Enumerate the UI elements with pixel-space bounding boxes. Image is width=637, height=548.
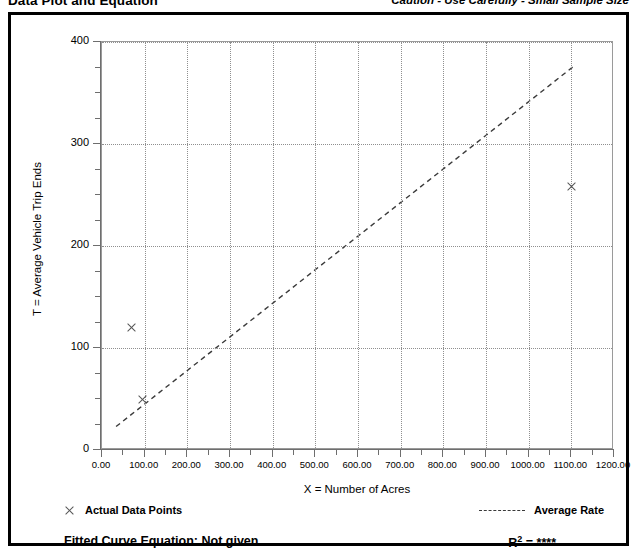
gridline-vertical: [529, 42, 530, 448]
plot-inner: [102, 42, 612, 448]
y-axis-tick-major: [93, 449, 101, 450]
y-axis-tick-minor: [95, 398, 101, 399]
y-axis-tick-label: 100: [57, 340, 89, 352]
x-axis-tick-major: [528, 449, 529, 457]
equation-row: Fitted Curve Equation: Not given R2 = **…: [11, 534, 632, 548]
gridline-vertical: [486, 42, 487, 448]
caution-note: Caution - Use Carefully - Small Sample S…: [391, 0, 629, 6]
fitted-curve-equation: Fitted Curve Equation: Not given: [64, 534, 258, 548]
y-axis-tick-minor: [95, 67, 101, 68]
gridline-horizontal: [102, 144, 612, 145]
r-squared-base: R: [508, 536, 517, 548]
gridline-vertical: [358, 42, 359, 448]
x-axis-tick-minor: [250, 449, 251, 455]
gridline-horizontal: [102, 348, 612, 349]
y-axis-tick-minor: [95, 220, 101, 221]
x-axis-tick-major: [186, 449, 187, 457]
y-axis-tick-minor: [95, 194, 101, 195]
y-axis-tick-minor: [95, 118, 101, 119]
data-point-marker: [566, 181, 577, 192]
y-axis-tick-minor: [95, 424, 101, 425]
x-axis-tick-label: 1200.00: [583, 459, 637, 470]
y-axis-tick-minor: [95, 169, 101, 170]
x-axis-tick-minor: [592, 449, 593, 455]
legend-label-data-points: Actual Data Points: [85, 504, 182, 516]
gridline-horizontal: [102, 246, 612, 247]
x-axis-tick-major: [485, 449, 486, 457]
x-axis-tick-major: [314, 449, 315, 457]
y-axis-title: T = Average Vehicle Trip Ends: [31, 69, 43, 409]
x-axis-tick-minor: [506, 449, 507, 455]
y-axis-tick-minor: [95, 296, 101, 297]
y-axis-tick-minor: [95, 92, 101, 93]
y-axis-tick-label: 200: [57, 238, 89, 250]
x-axis-tick-minor: [293, 449, 294, 455]
data-point-marker: [126, 322, 137, 333]
x-axis-tick-major: [613, 449, 614, 457]
gridline-vertical: [230, 42, 231, 448]
legend-item-data-points: Actual Data Points: [64, 504, 182, 516]
x-axis-tick-minor: [464, 449, 465, 455]
plot-area: [101, 41, 613, 449]
legend-item-average-rate: Average Rate: [479, 504, 604, 516]
x-axis-tick-minor: [122, 449, 123, 455]
x-axis-tick-minor: [549, 449, 550, 455]
y-axis-tick-major: [93, 245, 101, 246]
y-axis-tick-label: 0: [57, 442, 89, 454]
x-axis-tick-major: [400, 449, 401, 457]
r-squared-value: R2 = ****: [508, 534, 556, 548]
x-axis-tick-major: [101, 449, 102, 457]
gridline-vertical: [401, 42, 402, 448]
y-axis-tick-major: [93, 41, 101, 42]
r-squared-equals: = ****: [526, 536, 556, 548]
data-point-marker: [137, 394, 148, 405]
chart-figure: 01002003004000.00100.00200.00300.00400.0…: [11, 15, 632, 548]
x-axis-tick-minor: [336, 449, 337, 455]
x-axis-tick-major: [570, 449, 571, 457]
y-axis-tick-minor: [95, 322, 101, 323]
r-squared-exponent: 2: [517, 534, 522, 544]
header-strip: Data Plot and Equation Caution - Use Car…: [0, 0, 637, 12]
x-axis-tick-minor: [421, 449, 422, 455]
average-rate-trendline: [102, 42, 612, 448]
x-axis-tick-major: [229, 449, 230, 457]
page-title: Data Plot and Equation: [8, 0, 158, 8]
gridline-horizontal: [102, 42, 612, 43]
x-axis-tick-minor: [165, 449, 166, 455]
x-marker-icon: [64, 505, 75, 516]
y-axis-tick-label: 400: [57, 34, 89, 46]
x-axis-tick-major: [272, 449, 273, 457]
y-axis-tick-major: [93, 143, 101, 144]
gridline-vertical: [145, 42, 146, 448]
dashed-line-icon: [479, 510, 525, 511]
x-axis-title: X = Number of Acres: [101, 483, 613, 495]
y-axis-tick-minor: [95, 271, 101, 272]
y-axis-tick-label: 300: [57, 136, 89, 148]
x-axis-tick-major: [144, 449, 145, 457]
y-axis-tick-minor: [95, 373, 101, 374]
gridline-vertical: [315, 42, 316, 448]
chart-legend: Actual Data Points Average Rate: [11, 504, 632, 528]
y-axis-tick-major: [93, 347, 101, 348]
x-axis-tick-major: [357, 449, 358, 457]
x-axis-tick-major: [442, 449, 443, 457]
x-axis-tick-minor: [378, 449, 379, 455]
x-axis-tick-minor: [208, 449, 209, 455]
chart-frame: 01002003004000.00100.00200.00300.00400.0…: [8, 12, 629, 546]
gridline-vertical: [273, 42, 274, 448]
gridline-vertical: [187, 42, 188, 448]
gridline-vertical: [571, 42, 572, 448]
gridline-vertical: [443, 42, 444, 448]
legend-label-average-rate: Average Rate: [534, 504, 604, 516]
